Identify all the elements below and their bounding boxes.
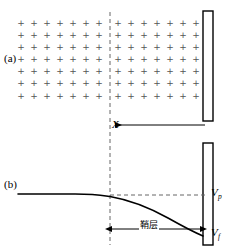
svg-text:+: + [43,91,51,101]
svg-text:+: + [56,18,64,28]
svg-text:+: + [43,66,51,76]
svg-text:+: + [30,42,38,52]
svg-text:+: + [17,42,25,52]
svg-text:+: + [114,66,122,76]
svg-text:+: + [179,30,187,40]
svg-text:+: + [17,54,25,64]
svg-text:+: + [192,78,200,88]
svg-text:+: + [140,18,148,28]
svg-text:+: + [82,42,90,52]
svg-text:+: + [30,18,38,28]
svg-text:+: + [95,66,103,76]
svg-text:+: + [82,30,90,40]
svg-text:+: + [166,91,174,101]
svg-text:+: + [82,66,90,76]
svg-text:+: + [69,78,77,88]
svg-text:+: + [95,18,103,28]
svg-text:+: + [127,42,135,52]
svg-text:+: + [179,54,187,64]
floating-potential-symbol: V [211,226,218,238]
svg-text:+: + [166,78,174,88]
panel-label-b: (b) [4,178,17,190]
svg-text:+: + [179,78,187,88]
svg-text:+: + [153,18,161,28]
svg-text:+: + [153,42,161,52]
svg-text:+: + [179,42,187,52]
svg-text:+: + [127,91,135,101]
svg-text:+: + [127,18,135,28]
svg-text:+: + [30,66,38,76]
svg-text:+: + [192,66,200,76]
svg-text:+: + [179,91,187,101]
svg-text:+: + [140,78,148,88]
svg-text:+: + [30,78,38,88]
svg-text:+: + [43,42,51,52]
svg-text:+: + [127,30,135,40]
svg-text:+: + [95,91,103,101]
svg-text:+: + [114,18,122,28]
svg-text:+: + [153,78,161,88]
svg-text:+: + [127,66,135,76]
svg-text:+: + [17,30,25,40]
svg-text:+: + [192,42,200,52]
svg-text:+: + [43,54,51,64]
svg-text:+: + [140,30,148,40]
svg-text:+: + [140,42,148,52]
svg-text:+: + [114,78,122,88]
svg-text:+: + [95,54,103,64]
x-axis-label: X [112,118,119,130]
svg-text:+: + [166,18,174,28]
svg-text:+: + [43,78,51,88]
floating-potential-label: Vf [211,226,220,241]
svg-text:+: + [114,54,122,64]
svg-text:+: + [192,54,200,64]
svg-text:+: + [56,66,64,76]
svg-text:+: + [179,18,187,28]
plasma-potential-label: Vp [211,186,222,201]
svg-text:+: + [82,78,90,88]
svg-text:+: + [43,18,51,28]
svg-text:+: + [95,30,103,40]
svg-text:+: + [30,30,38,40]
plasma-potential-symbol: V [211,186,218,198]
floating-potential-subscript: f [218,232,220,241]
svg-text:+: + [82,54,90,64]
svg-text:+: + [127,54,135,64]
svg-text:+: + [179,66,187,76]
svg-text:+: + [153,66,161,76]
wall-electrode-panel-a [203,11,213,121]
svg-text:+: + [140,54,148,64]
svg-text:+: + [17,18,25,28]
svg-text:+: + [140,91,148,101]
svg-text:+: + [166,30,174,40]
svg-text:+: + [95,78,103,88]
potential-curve [18,194,203,236]
svg-text:+: + [69,66,77,76]
svg-text:+: + [30,91,38,101]
svg-text:+: + [192,91,200,101]
svg-text:+: + [95,42,103,52]
svg-text:+: + [114,91,122,101]
panel-a-charge-grid: +++ +++ + +++ +++ + +++ +++ + +++ +++ + … [17,18,200,101]
svg-text:+: + [56,42,64,52]
svg-text:+: + [30,54,38,64]
svg-text:+: + [69,54,77,64]
svg-text:+: + [153,91,161,101]
svg-text:+: + [17,78,25,88]
svg-text:+: + [114,42,122,52]
svg-text:+: + [166,54,174,64]
svg-text:+: + [114,30,122,40]
svg-text:+: + [56,30,64,40]
svg-text:+: + [17,66,25,76]
svg-text:+: + [166,66,174,76]
svg-text:+: + [56,54,64,64]
svg-text:+: + [69,42,77,52]
svg-text:+: + [56,91,64,101]
panel-label-a: (a) [4,52,16,64]
svg-text:+: + [153,54,161,64]
svg-text:+: + [192,30,200,40]
sheath-annotation-label: 鞘层 [139,220,159,231]
plasma-potential-subscript: p [218,192,222,201]
svg-text:+: + [69,91,77,101]
svg-text:+: + [127,78,135,88]
